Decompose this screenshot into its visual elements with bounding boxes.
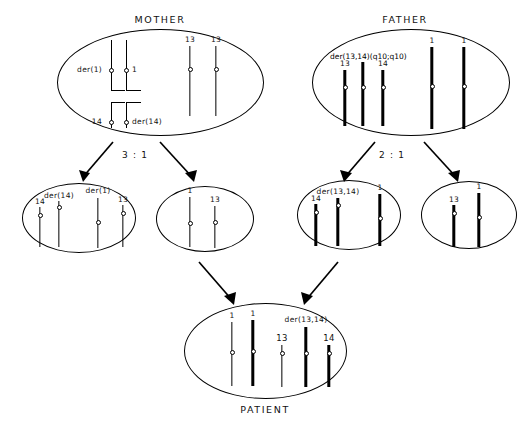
chromosome-label: 1 bbox=[187, 187, 192, 195]
chromosome: der(13,14) bbox=[332, 198, 344, 248]
chromosome: 1 bbox=[473, 193, 485, 249]
chromosome: 14 bbox=[34, 207, 46, 249]
chromosome-label: 1 bbox=[229, 312, 234, 320]
chromosome: 14 bbox=[310, 204, 322, 248]
chromosome-label: der(14) bbox=[44, 192, 74, 200]
chromosome-label: 14 bbox=[311, 195, 321, 203]
chromosome-label: 13 bbox=[449, 196, 459, 204]
chromosome: 1 bbox=[374, 194, 386, 248]
chromosome-label: 13 bbox=[210, 196, 220, 204]
chromosome-label: der(1) bbox=[86, 187, 111, 195]
patient-title: PATIENT bbox=[205, 404, 325, 415]
chromosome-label: 1 bbox=[476, 183, 481, 191]
gamete-oval bbox=[421, 181, 517, 249]
chromosome: 1 bbox=[247, 320, 259, 388]
chromosome-label: 1 bbox=[250, 310, 255, 318]
chromosome: 13 bbox=[209, 206, 221, 250]
chromosome: 1 bbox=[184, 197, 196, 249]
chromosome-label: 13 bbox=[118, 196, 128, 204]
chromosome: 1 bbox=[226, 322, 238, 388]
chromosome-label: 14 bbox=[323, 334, 334, 343]
chromosome-label: 1 bbox=[377, 184, 382, 192]
chromosome: der(13,14) bbox=[300, 327, 312, 389]
chromosome: 13 bbox=[276, 345, 288, 389]
chromosome-label: der(13,14) bbox=[285, 316, 328, 324]
chromosome-label: 13 bbox=[276, 334, 287, 343]
chromosome: der(1) bbox=[92, 198, 104, 250]
chromosome: 13 bbox=[117, 205, 129, 249]
chromosome: 13 bbox=[448, 205, 460, 249]
pedigree-diagram: MOTHER der(1) 1 14 der(14) 13 13 bbox=[0, 0, 528, 427]
chromosome: 14 bbox=[323, 345, 335, 389]
chromosome-label: der(13,14) bbox=[317, 188, 360, 196]
gamete-oval bbox=[156, 186, 254, 252]
chromosome: der(14) bbox=[53, 201, 65, 249]
